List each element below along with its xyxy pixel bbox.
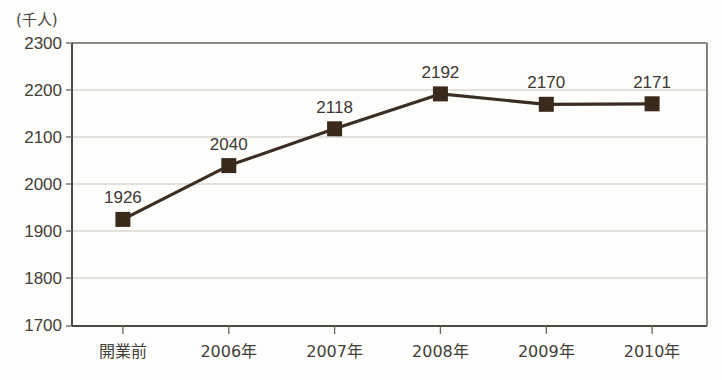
data-point-marker-3[interactable] xyxy=(433,86,448,101)
x-tick-label-2008: 2008年 xyxy=(390,338,490,362)
data-point-label-2: 2118 xyxy=(305,98,365,118)
x-tick-label-2006: 2006年 xyxy=(179,338,279,362)
data-point-label-5: 2171 xyxy=(622,73,682,93)
data-series-line xyxy=(123,94,652,219)
x-tick-label-2007: 2007年 xyxy=(285,338,385,362)
data-point-label-4: 2170 xyxy=(516,73,576,93)
data-point-marker-0[interactable] xyxy=(115,212,130,227)
data-markers xyxy=(115,86,659,227)
x-tick-label-2009: 2009年 xyxy=(496,338,596,362)
x-tick-label-kaigyomae: 開業前 xyxy=(73,338,173,362)
data-point-label-1: 2040 xyxy=(199,135,259,155)
data-point-marker-1[interactable] xyxy=(221,158,236,173)
x-tick-label-2010: 2010年 xyxy=(602,338,702,362)
line-chart: (千人) 2300 2200 2100 2000 1900 1800 1700 xyxy=(0,0,722,380)
data-point-marker-4[interactable] xyxy=(539,97,554,112)
data-point-label-3: 2192 xyxy=(410,63,470,83)
data-point-label-0: 1926 xyxy=(93,188,153,208)
data-point-marker-5[interactable] xyxy=(645,96,660,111)
data-point-marker-2[interactable] xyxy=(327,121,342,136)
